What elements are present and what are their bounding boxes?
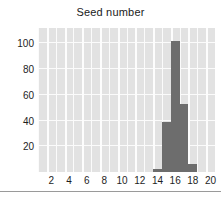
- bar: [162, 122, 171, 172]
- x-tick-label: 4: [66, 175, 72, 186]
- gridline-x-13: [144, 28, 145, 172]
- gridline-x-5: [73, 28, 74, 172]
- x-tick-label: 12: [134, 175, 145, 186]
- gridline-x-2: [47, 28, 49, 172]
- plot-area: [38, 28, 215, 172]
- bottom-strip: [0, 192, 221, 199]
- x-tick-label: 20: [205, 175, 216, 186]
- gridline-x-20: [206, 28, 208, 172]
- gridline-x-8: [100, 28, 102, 172]
- chart-title: Seed number: [0, 6, 221, 18]
- gridline-x-18: [188, 28, 190, 172]
- x-tick-label: 14: [152, 175, 163, 186]
- x-tick-label: 6: [84, 175, 90, 186]
- gridline-x-12: [135, 28, 137, 172]
- x-tick-label: 16: [170, 175, 181, 186]
- gridline-x-1: [38, 28, 39, 172]
- gridline-x-10: [118, 28, 120, 172]
- gridline-x-11: [127, 28, 128, 172]
- y-tick-label: 60: [0, 89, 34, 100]
- x-tick-label: 2: [48, 175, 54, 186]
- x-tick-label: 10: [117, 175, 128, 186]
- gridline-x-3: [56, 28, 57, 172]
- gridline-x-9: [109, 28, 110, 172]
- x-axis: 2468101214161820: [0, 175, 221, 189]
- x-tick-label: 18: [187, 175, 198, 186]
- bar: [153, 169, 162, 172]
- chart-figure: Seed number 20406080100 2468101214161820: [0, 0, 221, 199]
- y-tick-label: 40: [0, 115, 34, 126]
- y-axis: 20406080100: [0, 28, 34, 172]
- gridline-x-7: [91, 28, 92, 172]
- gridline-x-6: [82, 28, 84, 172]
- gridline-x-14: [153, 28, 155, 172]
- bar: [171, 41, 180, 172]
- gridline-x-4: [65, 28, 67, 172]
- bar: [188, 164, 197, 172]
- x-tick-label: 8: [102, 175, 108, 186]
- y-tick-label: 20: [0, 141, 34, 152]
- bar: [180, 104, 189, 172]
- y-tick-label: 80: [0, 64, 34, 75]
- gridline-x-19: [197, 28, 198, 172]
- y-tick-label: 100: [0, 38, 34, 49]
